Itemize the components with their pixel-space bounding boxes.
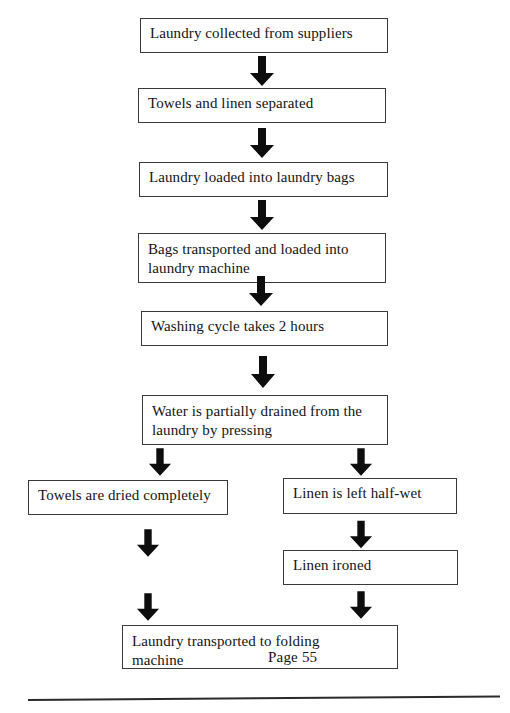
flow-arrow-down-left-branch [148, 447, 172, 477]
flow-node-washing-cycle: Washing cycle takes 2 hours [141, 311, 388, 346]
flow-node-towels-linen-separated: Towels and linen separated [138, 88, 386, 123]
flow-node-water-drained: Water is partially drained from the laun… [142, 395, 388, 445]
flow-node-towels-dried: Towels are dried completely [28, 480, 228, 515]
flow-node-linen-half-wet: Linen is left half-wet [283, 478, 457, 514]
page-number-label: Page 55 [268, 649, 317, 666]
flow-arrow-down-right-branch [349, 447, 373, 477]
flow-arrow-down [249, 128, 275, 158]
flow-arrow-down [249, 56, 275, 86]
flow-arrow-down [249, 200, 275, 230]
flowchart-page: Laundry collected from suppliers Towels … [0, 0, 510, 713]
flow-node-linen-ironed: Linen ironed [283, 550, 458, 585]
flow-node-laundry-collected: Laundry collected from suppliers [140, 18, 388, 53]
flow-arrow-down [136, 528, 160, 558]
flow-arrow-down [349, 520, 373, 549]
flow-node-laundry-folding-machine: Laundry transported to folding machine [122, 625, 398, 669]
footer-rule [28, 696, 500, 701]
flow-arrow-down [136, 592, 160, 622]
flow-arrow-down [349, 590, 373, 620]
flow-arrow-down [250, 356, 276, 388]
flow-node-laundry-loaded-bags: Laundry loaded into laundry bags [139, 162, 388, 197]
flow-arrow-down [248, 276, 274, 306]
